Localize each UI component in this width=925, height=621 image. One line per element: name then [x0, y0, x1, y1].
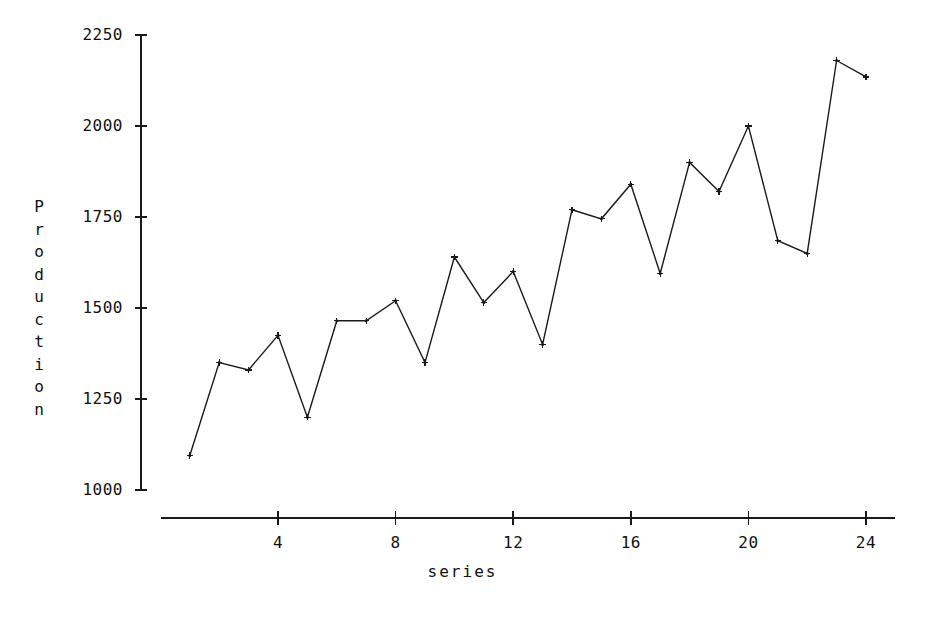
x-axis-tick-label: 16 — [611, 533, 651, 552]
data-point-dot — [335, 319, 338, 322]
data-point-marker — [569, 207, 575, 213]
chart-canvas — [0, 0, 925, 621]
data-point-dot — [188, 454, 191, 457]
data-point-dot — [571, 208, 574, 211]
data-point-marker — [775, 237, 781, 243]
data-point-dot — [629, 183, 632, 186]
x-axis-tick-label: 20 — [728, 533, 768, 552]
data-point-marker — [539, 341, 545, 347]
data-point-marker — [833, 57, 839, 63]
data-point-dot — [306, 416, 309, 419]
y-axis-label-letter: t — [34, 331, 44, 354]
y-axis-label-letter: d — [34, 264, 44, 287]
data-point-dot — [747, 125, 750, 128]
data-point-marker — [745, 123, 751, 129]
x-axis-tick-label: 4 — [258, 533, 298, 552]
data-point-dot — [806, 252, 809, 255]
data-point-dot — [835, 59, 838, 62]
chart-axes — [135, 35, 895, 525]
x-axis-tick-label: 8 — [376, 533, 416, 552]
data-point-dot — [512, 270, 515, 273]
data-point-dot — [453, 256, 456, 259]
y-axis-label-letter: i — [34, 354, 44, 377]
data-point-dot — [394, 299, 397, 302]
data-point-marker — [304, 414, 310, 420]
data-point-dot — [659, 272, 662, 275]
y-axis-tick-label: 2000 — [43, 116, 123, 135]
y-axis-tick-label: 1750 — [43, 207, 123, 226]
data-point-marker — [422, 359, 428, 365]
data-point-dot — [688, 161, 691, 164]
chart-plot-area: Production series 1000125015001750200022… — [0, 0, 925, 621]
data-point-marker — [216, 359, 222, 365]
data-point-dot — [218, 361, 221, 364]
data-point-dot — [600, 217, 603, 220]
data-point-dot — [424, 361, 427, 364]
data-point-dot — [365, 319, 368, 322]
y-axis-tick-label: 2250 — [43, 25, 123, 44]
y-axis-tick-label: 1250 — [43, 389, 123, 408]
data-point-marker — [863, 74, 869, 80]
data-point-dot — [247, 368, 250, 371]
data-point-dot — [541, 343, 544, 346]
data-point-dot — [277, 334, 280, 337]
data-point-dot — [718, 190, 721, 193]
data-point-dot — [865, 75, 868, 78]
data-point-marker — [657, 270, 663, 276]
y-axis-tick-label: 1000 — [43, 480, 123, 499]
data-point-marker — [804, 250, 810, 256]
x-axis-tick-label: 12 — [493, 533, 533, 552]
x-axis-tick-label: 24 — [846, 533, 886, 552]
data-point-marker — [187, 452, 193, 458]
y-axis-label-letter: o — [34, 241, 44, 264]
data-point-markers — [187, 57, 870, 458]
data-point-marker — [334, 318, 340, 324]
data-point-dot — [482, 301, 485, 304]
data-line-series-production — [190, 60, 866, 455]
data-point-dot — [776, 239, 779, 242]
x-axis-label: series — [0, 562, 925, 581]
y-axis-tick-label: 1500 — [43, 298, 123, 317]
